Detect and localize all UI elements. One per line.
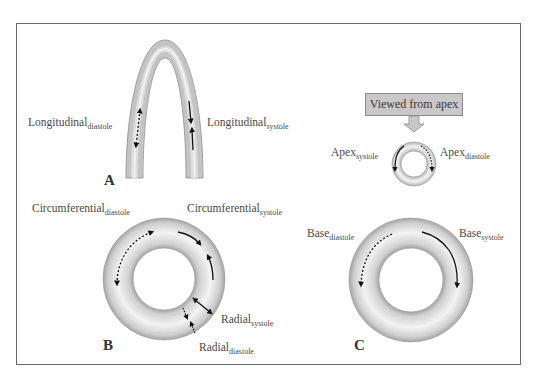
label-longitudinal-systole: Longitudinalsystole — [207, 117, 289, 131]
apex-ring — [392, 142, 436, 186]
down-arrow-icon — [404, 116, 424, 132]
label-longitudinal-diastole: Longitudinaldiastole — [28, 117, 112, 131]
label-base-systole: Basesystole — [459, 228, 504, 242]
panel-letter-c: C — [354, 338, 365, 353]
panel-b-ring — [103, 218, 225, 340]
label-circumferential-diastole: Circumferentialdiastole — [32, 203, 130, 217]
panel-letter-a: A — [104, 173, 115, 188]
label-circumferential-systole: Circumferentialsystole — [187, 203, 282, 217]
panel-letter-b: B — [103, 338, 113, 353]
label-radial-systole: Radialsystole — [221, 314, 273, 328]
label-radial-diastole: Radialdiastole — [199, 342, 254, 356]
label-base-diastole: Basediastole — [307, 228, 354, 242]
label-apex-diastole: Apexdiastole — [440, 147, 490, 161]
label-apex-systole: Apexsystole — [331, 147, 378, 161]
panel-a-arch — [126, 40, 203, 178]
viewed-from-apex-box: Viewed from apex — [365, 93, 463, 116]
base-ring — [349, 218, 473, 342]
